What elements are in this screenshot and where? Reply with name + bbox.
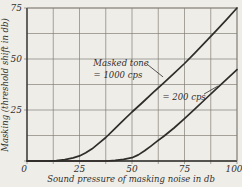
y-tick-label: 75 — [11, 3, 23, 13]
y-tick-label: 50 — [11, 54, 23, 64]
x-axis-label: Sound pressure of masking noise in db — [47, 174, 215, 184]
y-tick-label: 25 — [10, 105, 23, 115]
masking-chart: Masked tone= 1000 cps= 200 cps 025507510… — [0, 0, 242, 187]
masked-tone-1000-label: = 1000 cps — [94, 70, 143, 80]
masked-tone-1000-label: Masked tone — [92, 58, 149, 68]
masked-tone-200-label: = 200 cps — [162, 92, 206, 102]
x-tick-label: 50 — [126, 164, 138, 174]
y-axis-label: Masking (threshold shift in db) — [0, 18, 10, 153]
x-tick-label: 75 — [179, 164, 191, 174]
masking-figure: Masked tone= 1000 cps= 200 cps 025507510… — [0, 0, 242, 187]
x-tick-label: 0 — [21, 164, 27, 174]
x-tick-label: 100 — [225, 164, 242, 174]
x-tick-label: 25 — [73, 164, 86, 174]
